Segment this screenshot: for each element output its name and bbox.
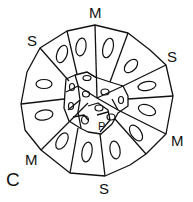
label-bottom-s: S <box>99 181 109 196</box>
label-top-left-s: S <box>27 33 37 48</box>
outer-boundary <box>21 25 173 176</box>
cell-cross-section-diagram <box>0 0 193 202</box>
label-corner-c: C <box>6 170 20 189</box>
label-right-m: M <box>171 133 184 148</box>
label-top-right-s: S <box>167 49 177 64</box>
label-left-m: M <box>25 152 38 167</box>
label-inner-p: P <box>98 121 105 132</box>
label-top-m: M <box>89 5 102 20</box>
